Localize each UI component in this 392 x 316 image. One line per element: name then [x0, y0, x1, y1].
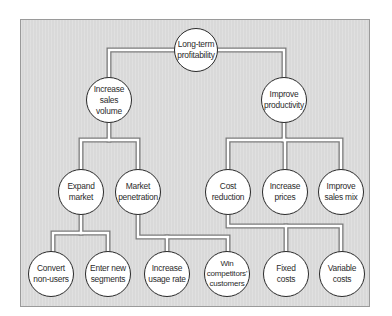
node-convert-non-users: Convert non-users — [28, 251, 74, 297]
node-increase-usage-rate: Increase usage rate — [144, 251, 190, 297]
node-label: Enter new segments — [90, 263, 126, 285]
node-increase-sales-volume: Increase sales volume — [86, 77, 132, 123]
node-improve-productivity: Improve productivity — [261, 77, 307, 123]
node-enter-new-segments: Enter new segments — [85, 251, 131, 297]
node-label: Improve productivity — [264, 89, 304, 111]
node-fixed-costs: Fixed costs — [263, 251, 309, 297]
node-label: Increase usage rate — [148, 263, 186, 285]
node-market-penetration: Market penetration — [115, 169, 161, 215]
node-long-term-profitability: Long-term profitability — [174, 28, 218, 72]
node-improve-sales-mix: Improve sales mix — [318, 169, 364, 215]
node-label: Increase sales volume — [94, 84, 125, 117]
node-label: Variable costs — [328, 263, 357, 285]
node-label: Fixed costs — [276, 263, 295, 285]
node-label: Increase prices — [270, 181, 301, 203]
node-variable-costs: Variable costs — [319, 251, 365, 297]
node-label: Improve sales mix — [324, 181, 357, 203]
node-win-competitors-customers: Win competitors' customers — [204, 251, 250, 297]
node-label: Expand market — [67, 181, 94, 203]
node-label: Long-term profitability — [177, 39, 214, 61]
node-increase-prices: Increase prices — [262, 169, 308, 215]
node-cost-reduction: Cost reduction — [205, 169, 251, 215]
node-label: Market penetration — [118, 181, 158, 203]
node-label: Win competitors' customers — [207, 259, 247, 289]
node-expand-market: Expand market — [58, 169, 104, 215]
node-label: Cost reduction — [212, 181, 245, 203]
node-label: Convert non-users — [33, 263, 68, 285]
